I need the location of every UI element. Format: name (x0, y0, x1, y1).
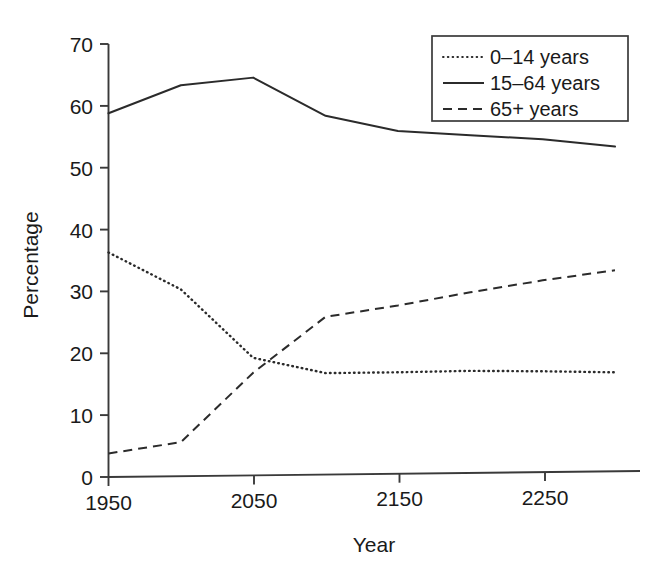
legend-label-15-64-years: 15–64 years (490, 72, 600, 94)
y-tick-label: 0 (81, 466, 93, 489)
y-tick-label: 40 (70, 219, 93, 242)
legend-label-65-plus-years: 65+ years (490, 98, 578, 120)
x-tick-labels: 1950 2050 2150 2250 (85, 486, 568, 514)
chart-container: 0 10 20 30 40 50 60 70 1950 2050 2150 22… (0, 0, 649, 571)
chart-legend[interactable]: 0–14 years 15–64 years 65+ years (432, 36, 628, 121)
population-age-structure-line-chart: 0 10 20 30 40 50 60 70 1950 2050 2150 22… (0, 0, 649, 571)
legend-label-0-14-years: 0–14 years (490, 46, 589, 68)
y-tick-label: 50 (70, 157, 93, 180)
y-tick-label: 30 (70, 280, 93, 303)
series-line-65-plus-years (109, 270, 616, 453)
y-tick-label: 20 (70, 342, 93, 365)
x-axis-line (109, 471, 641, 477)
x-tick-label: 2050 (231, 489, 278, 512)
x-tick-label: 2150 (376, 487, 423, 510)
y-tick-label: 70 (70, 33, 93, 56)
x-axis-title: Year (353, 533, 395, 556)
y-tick-labels: 0 10 20 30 40 50 60 70 (70, 33, 93, 489)
y-tick-marks (100, 44, 109, 477)
series-line-0-14-years (109, 252, 616, 373)
y-tick-label: 60 (70, 95, 93, 118)
y-axis-title: Percentage (19, 211, 42, 318)
x-tick-label: 1950 (85, 491, 132, 514)
x-tick-label: 2250 (522, 486, 569, 509)
series-group (109, 78, 616, 454)
y-tick-label: 10 (70, 404, 93, 427)
